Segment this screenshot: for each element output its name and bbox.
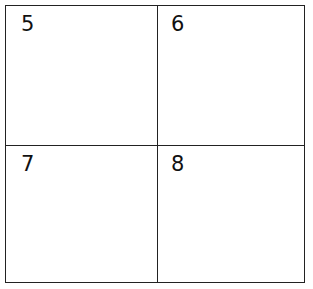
cell-label-top-right: 6 (171, 14, 184, 35)
vertical-divider (157, 6, 158, 282)
cell-label-bottom-right: 8 (171, 154, 184, 175)
cell-label-bottom-left: 7 (21, 154, 34, 175)
cell-label-top-left: 5 (21, 14, 34, 35)
quadrant-grid: 5 6 7 8 (5, 5, 305, 283)
horizontal-divider (6, 145, 304, 146)
